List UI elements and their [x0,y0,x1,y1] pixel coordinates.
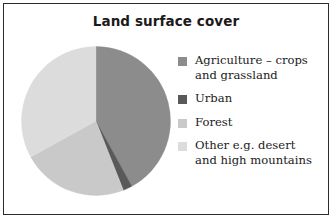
legend-item-label: Urban [195,91,232,106]
legend-item: Other e.g. desert and high mountains [178,138,326,167]
legend-item-label: Forest [195,115,232,130]
legend-item-label: Other e.g. desert and high mountains [195,138,312,167]
legend-item: Forest [178,115,326,130]
legend-item-label: Agriculture – crops and grassland [195,53,308,82]
chart-figure-frame: Land surface cover Agriculture – crops a… [3,3,329,215]
legend-swatch-agriculture [178,57,187,66]
legend-swatch-urban [178,95,187,104]
chart-title: Land surface cover [4,13,328,29]
legend-swatch-other [178,142,187,151]
legend-item: Urban [178,91,326,106]
legend-swatch-forest [178,119,187,128]
pie-slice-group [22,47,171,196]
chart-legend: Agriculture – crops and grasslandUrbanFo… [178,53,326,176]
legend-item: Agriculture – crops and grassland [178,53,326,82]
pie-chart-svg [21,46,171,196]
pie-chart [21,46,171,196]
